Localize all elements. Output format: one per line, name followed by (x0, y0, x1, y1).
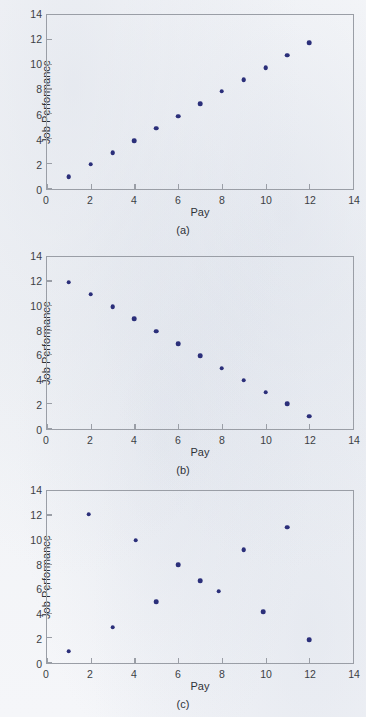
y-axis-tick (47, 88, 52, 89)
data-point (307, 637, 312, 642)
x-axis-tick-label: 10 (260, 668, 272, 680)
y-axis-tick-label: 4 (36, 134, 42, 146)
y-axis-tick (47, 662, 52, 663)
data-point (307, 41, 312, 46)
y-axis-tick (47, 138, 52, 139)
y-axis-tick-label: 10 (30, 534, 42, 546)
x-axis-tick (266, 424, 267, 429)
y-axis-tick-label: 8 (36, 559, 42, 571)
y-axis-tick-label: 8 (36, 325, 42, 337)
x-axis-tick (309, 424, 310, 429)
data-point (132, 138, 137, 143)
x-axis-tick-label: 8 (219, 434, 225, 446)
x-axis-tick-label: 12 (304, 434, 316, 446)
x-axis-tick-label: 2 (87, 668, 93, 680)
data-point (154, 599, 159, 604)
data-point (285, 402, 290, 407)
data-point (198, 354, 203, 359)
y-axis-tick (47, 613, 52, 614)
y-axis-tick-label: 4 (36, 374, 42, 386)
y-axis-tick (47, 64, 52, 65)
x-axis-tick (91, 184, 92, 189)
y-axis-tick-label: 12 (30, 509, 42, 521)
chart-panel-a: Job Performance 02468101214 02468101214 … (0, 0, 366, 240)
x-axis-tick (353, 184, 354, 189)
x-axis-tick (309, 184, 310, 189)
y-axis-tick (47, 305, 52, 306)
data-point (67, 649, 72, 654)
data-point (263, 390, 268, 395)
x-axis-tick (178, 184, 179, 189)
x-axis-tick-labels-c: 02468101214 (46, 664, 354, 680)
y-axis-tick-label: 14 (30, 250, 42, 262)
y-axis-tick-labels-b: 02468101214 (18, 256, 42, 430)
data-point (154, 126, 159, 131)
y-axis-tick-label: 6 (36, 349, 42, 361)
plot-area-b (46, 256, 354, 430)
y-axis-tick-label: 0 (36, 658, 42, 670)
data-point (132, 317, 137, 322)
y-axis-tick (47, 330, 52, 331)
panel-caption-c: (c) (0, 698, 366, 710)
x-axis-tick (134, 184, 135, 189)
y-axis-tick-label: 10 (30, 300, 42, 312)
x-axis-tick-label: 14 (348, 434, 360, 446)
x-axis-tick-label: 8 (219, 194, 225, 206)
data-point (88, 162, 93, 167)
panel-caption-a: (a) (0, 224, 366, 236)
x-axis-tick (91, 424, 92, 429)
x-axis-tick-label: 14 (348, 194, 360, 206)
x-axis-title-b: Pay (46, 446, 354, 458)
data-point (307, 414, 312, 419)
x-axis-tick (91, 658, 92, 663)
y-axis-tick (47, 490, 52, 491)
x-axis-tick-label: 2 (87, 434, 93, 446)
y-axis-tick-label: 14 (30, 484, 42, 496)
x-axis-tick-label: 6 (175, 434, 181, 446)
plot-area-c (46, 490, 354, 664)
data-point (154, 329, 159, 334)
x-axis-tick-label: 12 (304, 194, 316, 206)
data-point (133, 538, 138, 543)
data-point (67, 174, 72, 179)
x-axis-tick-label: 8 (219, 668, 225, 680)
plot-area-a (46, 14, 354, 190)
data-point (88, 292, 93, 297)
x-axis-tick-label: 4 (131, 668, 137, 680)
x-axis-tick-label: 6 (175, 668, 181, 680)
y-axis-tick (47, 539, 52, 540)
x-axis-tick-label: 12 (304, 668, 316, 680)
y-axis-tick (47, 379, 52, 380)
y-axis-tick (47, 514, 52, 515)
x-axis-tick (178, 658, 179, 663)
data-point (285, 53, 290, 58)
y-axis-tick (47, 113, 52, 114)
x-axis-tick (222, 184, 223, 189)
chart-panel-c: Job Performance 02468101214 02468101214 … (0, 478, 366, 717)
x-axis-tick (353, 424, 354, 429)
y-axis-tick-label: 4 (36, 608, 42, 620)
y-axis-tick (47, 588, 52, 589)
y-axis-tick (47, 428, 52, 429)
data-point (86, 512, 91, 517)
data-point (241, 77, 246, 82)
y-axis-tick-label: 2 (36, 633, 42, 645)
x-axis-tick (266, 184, 267, 189)
y-axis-tick-label: 2 (36, 399, 42, 411)
y-axis-tick-label: 2 (36, 159, 42, 171)
panel-caption-b: (b) (0, 464, 366, 476)
data-point (110, 151, 115, 156)
y-axis-tick-label: 12 (30, 33, 42, 45)
x-axis-tick (353, 658, 354, 663)
y-axis-tick (47, 637, 52, 638)
x-axis-title-a: Pay (46, 206, 354, 218)
x-axis-tick-label: 4 (131, 434, 137, 446)
data-point (110, 625, 115, 630)
x-axis-tick-labels-b: 02468101214 (46, 430, 354, 446)
data-point (220, 89, 225, 94)
x-axis-tick-label: 6 (175, 194, 181, 206)
x-axis-tick-label: 14 (348, 668, 360, 680)
x-axis-tick (134, 424, 135, 429)
data-point (241, 378, 246, 383)
data-point (176, 562, 181, 567)
